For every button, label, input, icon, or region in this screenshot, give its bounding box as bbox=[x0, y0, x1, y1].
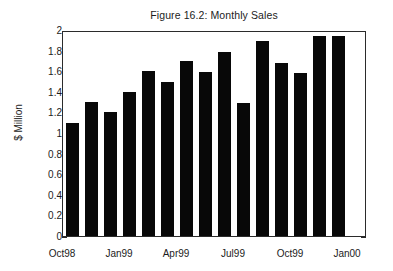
y-axis-tick-label: 1 bbox=[14, 129, 62, 139]
y-axis-tick-label: 0.8 bbox=[14, 150, 62, 160]
bar bbox=[180, 61, 193, 236]
y-axis-tick-label: 2 bbox=[14, 26, 62, 36]
x-axis-tick-label: Jan00 bbox=[307, 248, 387, 259]
bar bbox=[256, 41, 269, 236]
chart-title: Figure 16.2: Monthly Sales bbox=[62, 9, 366, 22]
y-axis-tick-label: 0 bbox=[14, 232, 62, 242]
bar bbox=[294, 73, 307, 236]
y-axis-tick-label: 1.2 bbox=[14, 108, 62, 118]
y-axis-tick bbox=[62, 237, 67, 238]
y-axis-tick-label: 1.8 bbox=[14, 47, 62, 57]
y-axis-title: $ Million bbox=[13, 88, 24, 158]
bar bbox=[104, 112, 117, 236]
bar bbox=[123, 92, 136, 236]
figure-container: Figure 16.2: Monthly Sales $ Million 00.… bbox=[0, 0, 393, 271]
bar-series bbox=[63, 32, 365, 236]
bar bbox=[199, 72, 212, 236]
bar bbox=[218, 52, 231, 236]
y-axis-tick-right bbox=[361, 237, 366, 238]
bar bbox=[142, 71, 155, 236]
bar bbox=[237, 103, 250, 236]
bar bbox=[85, 102, 98, 236]
y-axis-tick-label: 1.4 bbox=[14, 88, 62, 98]
bar bbox=[275, 63, 288, 236]
bar bbox=[332, 36, 345, 236]
y-axis-tick-label: 1.6 bbox=[14, 67, 62, 77]
y-axis-tick-label: 0.4 bbox=[14, 191, 62, 201]
y-axis-tick-label: 0.6 bbox=[14, 170, 62, 180]
bar bbox=[66, 123, 79, 236]
bar bbox=[161, 82, 174, 237]
bar bbox=[313, 36, 326, 236]
plot-area bbox=[62, 31, 366, 237]
y-axis-tick-label: 0.2 bbox=[14, 211, 62, 221]
